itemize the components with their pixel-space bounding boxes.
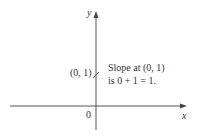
y-axis-arrow-icon bbox=[94, 11, 99, 18]
y-axis-label: y bbox=[87, 7, 91, 18]
annotation-line-2: is 0 + 1 = 1. bbox=[108, 75, 156, 86]
origin-label: 0 bbox=[86, 109, 91, 120]
diagram-canvas bbox=[0, 0, 197, 137]
x-axis-label: x bbox=[182, 110, 186, 121]
point-label: (0, 1) bbox=[70, 67, 92, 78]
annotation-line-1: Slope at (0, 1) bbox=[108, 62, 165, 73]
x-axis-arrow-icon bbox=[180, 104, 187, 109]
